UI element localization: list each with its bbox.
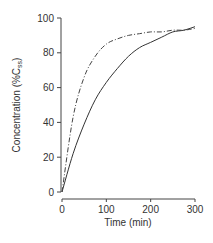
- x-tick-label: 300: [187, 204, 204, 215]
- chart: 0204060801000100200300 Time (min) Concen…: [0, 0, 213, 243]
- x-axis-label: Time (min): [104, 217, 151, 228]
- y-tick-label: 100: [37, 13, 54, 24]
- y-tick-label: 20: [43, 152, 55, 163]
- plot-area: [62, 27, 195, 192]
- x-tick-label: 100: [98, 204, 115, 215]
- series-solid-line: [62, 27, 195, 192]
- y-tick-label: 40: [43, 117, 55, 128]
- y-axis-label: Concentration (%Css): [11, 58, 23, 153]
- y-tick-label: 80: [43, 47, 55, 58]
- y-tick-label: 0: [48, 187, 54, 198]
- axes: 0204060801000100200300: [37, 13, 203, 216]
- series-dash-dot-line: [62, 28, 195, 192]
- x-tick-label: 200: [142, 204, 159, 215]
- y-tick-label: 60: [43, 82, 55, 93]
- x-tick-label: 0: [59, 204, 65, 215]
